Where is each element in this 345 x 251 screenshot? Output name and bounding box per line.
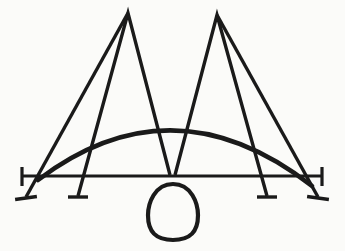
drawing-canvas (0, 0, 345, 251)
background (0, 0, 345, 251)
line-drawing-figure (0, 0, 345, 251)
